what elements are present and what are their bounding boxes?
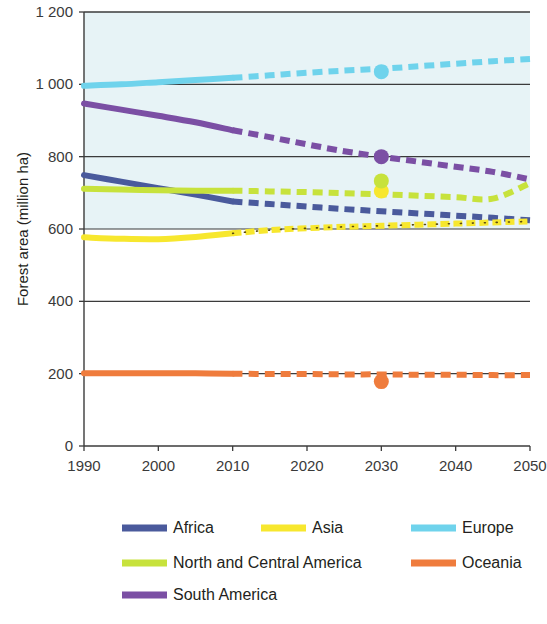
legend-label-oceania: Oceania [462,554,522,571]
legend-label-africa: Africa [173,519,214,536]
plot-background-lower [84,229,530,446]
x-tick-label-2030: 2030 [365,457,398,474]
y-tick-label-600: 600 [48,220,73,237]
y-axis-title: Forest area (million ha) [14,152,31,306]
y-tick-labels: 02004006008001 0001 200 [35,3,73,454]
x-tick-label-2010: 2010 [216,457,249,474]
x-tick-label-2050: 2050 [513,457,546,474]
x-tick-label-2040: 2040 [439,457,472,474]
legend-label-europe: Europe [462,519,514,536]
y-tick-label-0: 0 [65,437,73,454]
x-tick-label-2000: 2000 [142,457,175,474]
y-tick-label-200: 200 [48,365,73,382]
x-tick-label-1990: 1990 [67,457,100,474]
figure-container: 1990200020102020203020402050 02004006008… [0,0,547,624]
legend-label-north-and-central-america: North and Central America [173,554,362,571]
x-tick-labels: 1990200020102020203020402050 [67,457,546,474]
series-line-solid-3 [84,189,233,191]
y-tick-label-1000: 1 000 [35,75,73,92]
forest-area-line-chart: 1990200020102020203020402050 02004006008… [0,0,547,624]
x-tick-label-2020: 2020 [290,457,323,474]
y-tick-label-400: 400 [48,292,73,309]
legend-label-south-america: South America [173,586,277,603]
marker-2030-south-america [374,149,389,164]
y-axis [79,12,84,446]
y-tick-label-800: 800 [48,148,73,165]
y-tick-label-1200: 1 200 [35,3,73,20]
marker-2030-europe [374,64,389,79]
marker-2030-oceania [374,374,389,389]
legend-label-asia: Asia [312,519,343,536]
marker-2030-north-and-central-america [374,173,389,188]
chart-legend: AfricaAsiaEuropeNorth and Central Americ… [122,519,522,603]
x-axis [84,446,530,451]
